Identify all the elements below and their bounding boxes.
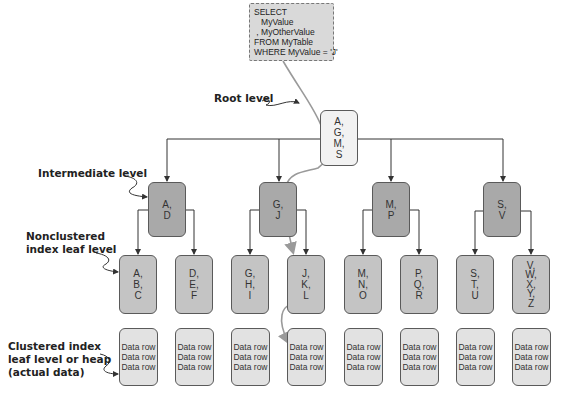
key: N, bbox=[358, 279, 368, 290]
sql-line: WHERE MyValue = 'J' bbox=[254, 47, 329, 57]
key: O bbox=[359, 290, 367, 301]
data-page: Data row Data row Data row bbox=[512, 328, 551, 386]
root-level-label: Root level bbox=[214, 92, 273, 105]
label-line: leaf level or heap bbox=[8, 353, 111, 366]
sql-line: SELECT bbox=[254, 7, 329, 17]
label-line: (actual data) bbox=[8, 366, 111, 379]
data-row: Data row bbox=[514, 362, 548, 372]
key: G, bbox=[334, 127, 345, 138]
sql-line: FROM MyTable bbox=[254, 37, 329, 47]
key: P, bbox=[415, 268, 423, 279]
data-page: Data row Data row Data row bbox=[231, 328, 270, 386]
data-row: Data row bbox=[177, 342, 211, 352]
sql-line: , MyOtherValue bbox=[254, 27, 329, 37]
intermediate-node: S, V bbox=[483, 182, 521, 237]
key: P bbox=[388, 210, 395, 221]
key: A, bbox=[133, 268, 142, 279]
data-row: Data row bbox=[121, 362, 155, 372]
key: D, bbox=[189, 268, 199, 279]
key: F bbox=[191, 290, 197, 301]
data-row: Data row bbox=[121, 342, 155, 352]
data-row: Data row bbox=[402, 342, 436, 352]
key: S, bbox=[470, 268, 479, 279]
data-row: Data row bbox=[514, 342, 548, 352]
key: T, bbox=[471, 279, 479, 290]
data-row: Data row bbox=[289, 362, 323, 372]
sql-line: MyValue bbox=[254, 17, 329, 27]
intermediate-node: G, J bbox=[259, 182, 297, 237]
data-row: Data row bbox=[458, 342, 492, 352]
leaf-node: D, E, F bbox=[175, 255, 213, 314]
leaf-node: V, W, X, Y, Z bbox=[512, 255, 550, 314]
data-row: Data row bbox=[233, 342, 267, 352]
intermediate-level-label: Intermediate level bbox=[38, 167, 147, 180]
key: C bbox=[134, 290, 141, 301]
data-row: Data row bbox=[233, 362, 267, 372]
data-row: Data row bbox=[346, 362, 380, 372]
data-row: Data row bbox=[458, 352, 492, 362]
key: Q, bbox=[414, 279, 425, 290]
sql-query-box: SELECT MyValue , MyOtherValue FROM MyTab… bbox=[249, 3, 334, 61]
intermediate-node: A, D bbox=[148, 182, 186, 237]
key: S, bbox=[497, 199, 506, 210]
data-row: Data row bbox=[289, 352, 323, 362]
leaf-node: A, B, C bbox=[119, 255, 157, 314]
label-line: index leaf level bbox=[26, 243, 116, 256]
key: M, bbox=[357, 268, 368, 279]
key: V bbox=[499, 210, 506, 221]
data-row: Data row bbox=[121, 352, 155, 362]
data-page: Data row Data row Data row bbox=[175, 328, 214, 386]
leaf-node: G, H, I bbox=[231, 255, 269, 314]
key: Z bbox=[528, 299, 534, 309]
key: I bbox=[249, 290, 252, 301]
data-row: Data row bbox=[177, 362, 211, 372]
nonclustered-leaf-label: Nonclustered index leaf level bbox=[26, 230, 116, 256]
data-row: Data row bbox=[402, 352, 436, 362]
root-node: A, G, M, S bbox=[320, 110, 358, 166]
data-row: Data row bbox=[402, 362, 436, 372]
data-page: Data row Data row Data row bbox=[344, 328, 383, 386]
data-row: Data row bbox=[458, 362, 492, 372]
leaf-node: P, Q, R bbox=[400, 255, 438, 314]
data-page: Data row Data row Data row bbox=[400, 328, 439, 386]
key: R bbox=[415, 290, 422, 301]
data-row: Data row bbox=[346, 342, 380, 352]
key: G, bbox=[245, 268, 256, 279]
data-row: Data row bbox=[346, 352, 380, 362]
key: M, bbox=[333, 138, 344, 149]
key: E, bbox=[189, 279, 198, 290]
key: U bbox=[471, 290, 478, 301]
data-row: Data row bbox=[514, 352, 548, 362]
key: B, bbox=[133, 279, 142, 290]
intermediate-node: M, P bbox=[372, 182, 410, 237]
data-row: Data row bbox=[289, 342, 323, 352]
key: L bbox=[303, 290, 309, 301]
data-row: Data row bbox=[177, 352, 211, 362]
key: J, bbox=[302, 268, 310, 279]
label-line: Nonclustered bbox=[26, 230, 116, 243]
leaf-node: M, N, O bbox=[344, 255, 382, 314]
key: K, bbox=[301, 279, 310, 290]
key: M, bbox=[385, 199, 396, 210]
key: H, bbox=[245, 279, 255, 290]
key: G, bbox=[273, 199, 284, 210]
key: S bbox=[336, 149, 343, 160]
key: A, bbox=[334, 116, 343, 127]
data-page: Data row Data row Data row bbox=[119, 328, 158, 386]
label-line: Clustered index bbox=[8, 340, 111, 353]
key: D bbox=[163, 210, 170, 221]
key: A, bbox=[162, 199, 171, 210]
leaf-node: J, K, L bbox=[287, 255, 325, 314]
leaf-node: S, T, U bbox=[456, 255, 494, 314]
data-row: Data row bbox=[233, 352, 267, 362]
data-page: Data row Data row Data row bbox=[287, 328, 326, 386]
clustered-leaf-label: Clustered index leaf level or heap (actu… bbox=[8, 340, 111, 379]
key: J bbox=[276, 210, 281, 221]
data-page: Data row Data row Data row bbox=[456, 328, 495, 386]
